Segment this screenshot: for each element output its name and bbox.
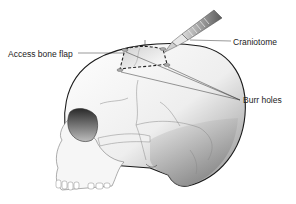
label-burr-holes: Burr holes bbox=[243, 95, 282, 105]
leader-craniotome bbox=[190, 40, 231, 41]
burr-hole-2 bbox=[160, 48, 166, 51]
burr-hole-1 bbox=[122, 49, 128, 52]
label-craniotome: Craniotome bbox=[233, 37, 277, 47]
burr-hole-4 bbox=[164, 64, 170, 67]
label-access-bone-flap: Access bone flap bbox=[8, 49, 73, 59]
burr-hole-3 bbox=[117, 69, 123, 72]
